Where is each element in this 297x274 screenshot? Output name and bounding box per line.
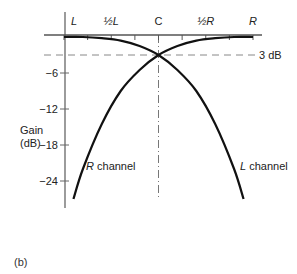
x-tick-label: L [71,15,77,27]
r-channel-curve [73,37,253,199]
figure-label: (b) [14,256,27,268]
l-channel-label: L channel [240,160,288,172]
x-tick-label: ½L [104,15,119,27]
r-channel-label: R channel [86,160,136,172]
axes [44,12,262,208]
labels: −6−12−18−24L½LC½RR3 dBGain(dB)R channelL… [20,15,288,187]
y-tick-label: −6 [45,67,58,79]
x-tick-label: ½R [197,15,214,27]
reference-label: 3 dB [259,49,282,61]
x-tick-label: R [249,15,257,27]
y-axis-title: Gain [20,124,43,136]
pan-law-chart: −6−12−18−24L½LC½RR3 dBGain(dB)R channelL… [0,0,297,274]
x-tick-label: C [155,15,163,27]
y-tick-label: −12 [39,103,58,115]
y-tick-label: −24 [39,175,58,187]
y-tick-label: −18 [39,139,58,151]
l-channel-curve [64,37,244,199]
y-axis-title: (dB) [20,137,41,149]
